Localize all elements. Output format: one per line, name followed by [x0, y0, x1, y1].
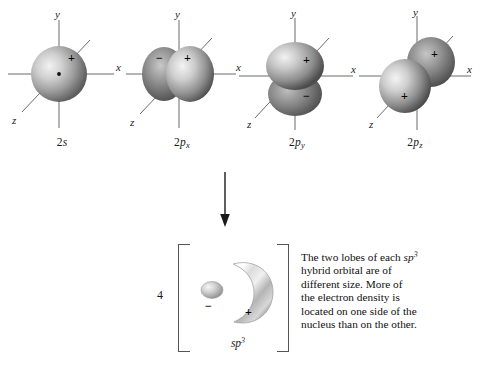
- caption-text: The two lobes of each sp3 hybrid orbital…: [301, 248, 473, 331]
- hybrid-orbital-graphic: − +: [193, 250, 283, 335]
- axis-label-y: y: [290, 8, 296, 19]
- orbital-label-2pz: 2pz: [355, 136, 475, 150]
- axis-label-z: z: [368, 118, 374, 130]
- orbital-panel-2pz: y x z + + 2pz: [355, 8, 475, 163]
- bracket-left: [178, 244, 190, 352]
- axis-label-y: y: [412, 8, 418, 18]
- orbital-2py-graphic: y x z + −: [237, 8, 357, 138]
- hybrid-lobe-sign-positive: +: [245, 305, 252, 319]
- lobe-sign-positive: +: [68, 51, 75, 65]
- caption-line-1: The two lobes of each: [301, 251, 404, 263]
- hybrid-orbital-group: 4: [155, 240, 305, 360]
- caption-line-4: the electron density is: [301, 291, 400, 303]
- orbital-2px-graphic: y x z − +: [122, 8, 242, 138]
- caption-term-superscript: 3: [414, 250, 418, 259]
- lobe-sign-positive-front: +: [401, 89, 408, 103]
- orbital-2s-graphic: y x z +: [2, 8, 122, 138]
- lobe-sign-positive: +: [184, 51, 191, 65]
- axis-label-y: y: [174, 8, 180, 20]
- caption-line-3: different size. More of: [301, 278, 402, 290]
- orbital-panel-2px: y x z − + 2px: [122, 8, 242, 163]
- lobe-sign-negative: −: [156, 51, 163, 65]
- orbital-label-2s: 2s: [2, 136, 122, 148]
- orbital-2pz-graphic: y x z + +: [355, 8, 475, 138]
- axis-label-x: x: [466, 63, 472, 75]
- axis-label-z: z: [129, 116, 135, 128]
- orbital-label-2px: 2px: [122, 136, 242, 150]
- lobe-sign-negative: −: [303, 89, 310, 103]
- axis-label-y: y: [54, 8, 60, 20]
- hybrid-orbital-label: sp3: [193, 336, 283, 349]
- lobe-sign-positive: +: [303, 53, 310, 67]
- caption-line-5: located on one side of the: [301, 305, 417, 317]
- orbital-panel-2py: y x z + − 2py: [237, 8, 357, 163]
- axis-label-x: x: [115, 61, 121, 73]
- orbital-hybridization-diagram: y x z + 2s: [0, 0, 481, 369]
- hybrid-coefficient: 4: [157, 288, 163, 303]
- caption-term: sp: [404, 251, 414, 263]
- orbital-label-2py: 2py: [237, 136, 357, 150]
- orbital-panel-2s: y x z + 2s: [2, 8, 122, 163]
- lobe-sign-positive-back: +: [431, 47, 438, 61]
- axis-label-z: z: [246, 118, 252, 130]
- axis-label-z: z: [11, 114, 17, 126]
- hybridization-arrow: [205, 172, 245, 228]
- caption-line-2: hybrid orbital are of: [301, 264, 392, 276]
- caption-line-6: nucleus than on the other.: [301, 318, 417, 330]
- hybrid-lobe-sign-negative: −: [205, 299, 212, 313]
